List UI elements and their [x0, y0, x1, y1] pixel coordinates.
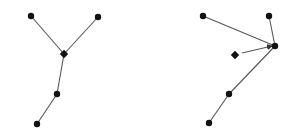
circle-node-icon: [200, 13, 206, 19]
circle-node-icon: [272, 43, 278, 49]
arrows-layer: [242, 46, 272, 53]
circle-node-icon: [266, 13, 272, 19]
circle-node-icon: [54, 91, 60, 97]
left-tree-edge: [64, 17, 98, 54]
edges-layer: [31, 16, 275, 124]
arrow-icon: [242, 46, 272, 53]
circle-node-icon: [95, 14, 101, 20]
right-tree-edge: [209, 94, 229, 123]
circle-node-icon: [34, 121, 40, 127]
left-tree-edge: [37, 94, 57, 124]
circle-node-icon: [206, 120, 212, 126]
right-tree-edge: [203, 16, 275, 46]
left-tree-edge: [57, 54, 64, 94]
diamond-node-icon: [231, 51, 239, 59]
circle-node-icon: [226, 91, 232, 97]
diagram-canvas: [0, 0, 290, 133]
left-tree-edge: [31, 16, 64, 54]
nodes-layer: [28, 13, 278, 127]
circle-node-icon: [28, 13, 34, 19]
right-tree-edge: [269, 16, 275, 46]
